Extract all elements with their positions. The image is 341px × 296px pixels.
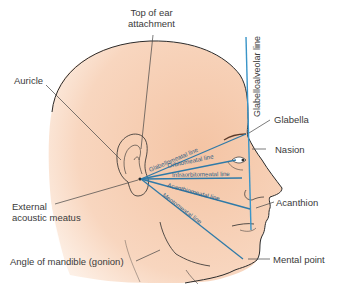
head-positioning-diagram: Glabellomeatal line Orbitomeatal line In… bbox=[0, 0, 341, 296]
label-eam-line2: acoustic meatus bbox=[12, 212, 81, 223]
label-external-acoustic-meatus: External acoustic meatus bbox=[12, 201, 81, 223]
label-top-of-ear-line2: attachment bbox=[128, 18, 175, 29]
label-mental-point: Mental point bbox=[273, 254, 325, 265]
label-acanthion: Acanthion bbox=[276, 197, 318, 208]
label-glabella: Glabella bbox=[274, 114, 309, 125]
label-top-of-ear-attachment: Top of ear attachment bbox=[128, 7, 175, 29]
label-top-of-ear-line1: Top of ear bbox=[128, 7, 175, 18]
label-eam-line1: External bbox=[12, 201, 81, 212]
label-auricle: Auricle bbox=[14, 75, 43, 86]
leader-glabella bbox=[249, 120, 270, 133]
infraorbitomeatal-line-label: Infraorbitomeatal line bbox=[172, 170, 230, 178]
label-angle-of-mandible: Angle of mandible (gonion) bbox=[10, 256, 124, 267]
label-glabelloalveolar-line: Glabelloalveolar line bbox=[252, 36, 262, 117]
label-nasion: Nasion bbox=[275, 144, 305, 155]
